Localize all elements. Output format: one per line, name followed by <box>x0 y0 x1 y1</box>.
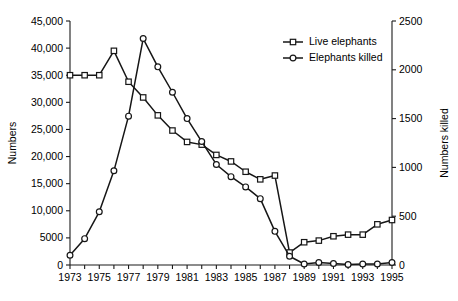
data-point-marker <box>272 228 278 234</box>
data-point-marker <box>140 95 145 100</box>
x-axis-tick-label: 1977 <box>117 271 141 283</box>
left-axis-tick-label: 40,000 <box>31 42 63 54</box>
x-axis-tick-label: 1987 <box>263 271 287 283</box>
data-point-marker <box>96 209 102 215</box>
data-point-marker <box>374 261 380 267</box>
data-point-marker <box>111 48 116 53</box>
data-point-marker <box>287 253 293 259</box>
right-axis-tick-label: 2000 <box>399 63 423 75</box>
data-point-marker <box>126 113 132 119</box>
left-axis-tick-label: 25,000 <box>31 123 63 135</box>
data-point-marker <box>170 128 175 133</box>
data-point-marker <box>258 177 263 182</box>
legend-marker-square <box>290 39 295 44</box>
data-point-marker <box>331 234 336 239</box>
data-point-marker <box>155 113 160 118</box>
data-point-marker <box>331 261 337 267</box>
data-point-marker <box>199 139 205 145</box>
data-point-marker <box>389 217 394 222</box>
data-point-marker <box>155 64 161 70</box>
x-axis-tick-label: 1981 <box>175 271 199 283</box>
data-point-marker <box>214 152 219 157</box>
data-point-marker <box>301 261 307 267</box>
left-axis-title: Numbers <box>6 122 18 165</box>
legend-item-label: Elephants killed <box>309 51 383 63</box>
data-point-marker <box>213 162 219 168</box>
data-point-marker <box>375 222 380 227</box>
data-point-marker <box>316 238 321 243</box>
left-axis-tick-label: 0 <box>57 259 63 271</box>
data-point-marker <box>82 73 87 78</box>
legend-item-label: Live elephants <box>309 35 377 47</box>
data-point-marker <box>111 168 117 174</box>
legend-marker-circle <box>290 55 296 61</box>
right-axis-tick-label: 0 <box>399 259 405 271</box>
right-axis-tick-label: 1500 <box>399 112 423 124</box>
data-point-marker <box>345 262 351 268</box>
x-axis-tick-label: 1991 <box>322 271 346 283</box>
data-point-marker <box>257 196 263 202</box>
x-axis-tick-label: 1993 <box>351 271 375 283</box>
right-axis-tick-label: 500 <box>399 210 417 222</box>
left-axis-tick-label: 20,000 <box>31 150 63 162</box>
x-axis-tick-label: 1973 <box>58 271 82 283</box>
left-axis-tick-label: 10,000 <box>31 204 63 216</box>
x-axis-tick-label: 1975 <box>88 271 112 283</box>
data-point-marker <box>389 260 395 266</box>
left-axis-tick-label: 35,000 <box>31 69 63 81</box>
data-point-marker <box>301 240 306 245</box>
data-point-marker <box>228 159 233 164</box>
chart-canvas: 0500010,00015,00020,00025,00030,00035,00… <box>0 0 458 301</box>
left-axis-tick-label: 15,000 <box>31 177 63 189</box>
series-line-elephants-killed <box>70 39 392 265</box>
data-point-marker <box>67 73 72 78</box>
data-point-marker <box>228 174 234 180</box>
left-axis-tick-label: 30,000 <box>31 96 63 108</box>
x-axis-tick-label: 1989 <box>293 271 317 283</box>
data-point-marker <box>67 252 73 258</box>
data-point-marker <box>140 36 146 42</box>
elephant-population-chart: 0500010,00015,00020,00025,00030,00035,00… <box>0 0 458 301</box>
data-point-marker <box>243 169 248 174</box>
data-point-marker <box>243 184 249 190</box>
x-axis-tick-label: 1985 <box>234 271 258 283</box>
data-point-marker <box>126 79 131 84</box>
data-point-marker <box>184 116 190 122</box>
data-point-marker <box>184 139 189 144</box>
data-point-marker <box>82 236 88 242</box>
data-point-marker <box>170 89 176 95</box>
right-axis-tick-label: 1000 <box>399 161 423 173</box>
right-axis-title: Numbers killed <box>438 108 450 178</box>
right-axis-tick-label: 2500 <box>399 15 423 27</box>
x-axis-tick-label: 1983 <box>205 271 229 283</box>
data-point-marker <box>272 173 277 178</box>
data-point-marker <box>316 260 322 266</box>
data-point-marker <box>360 232 365 237</box>
data-point-marker <box>360 261 366 267</box>
data-point-marker <box>345 232 350 237</box>
x-axis-tick-label: 1979 <box>146 271 170 283</box>
left-axis-tick-label: 5000 <box>40 231 64 243</box>
data-point-marker <box>97 73 102 78</box>
left-axis-tick-label: 45,000 <box>31 15 63 27</box>
x-axis-tick-label: 1995 <box>380 271 404 283</box>
